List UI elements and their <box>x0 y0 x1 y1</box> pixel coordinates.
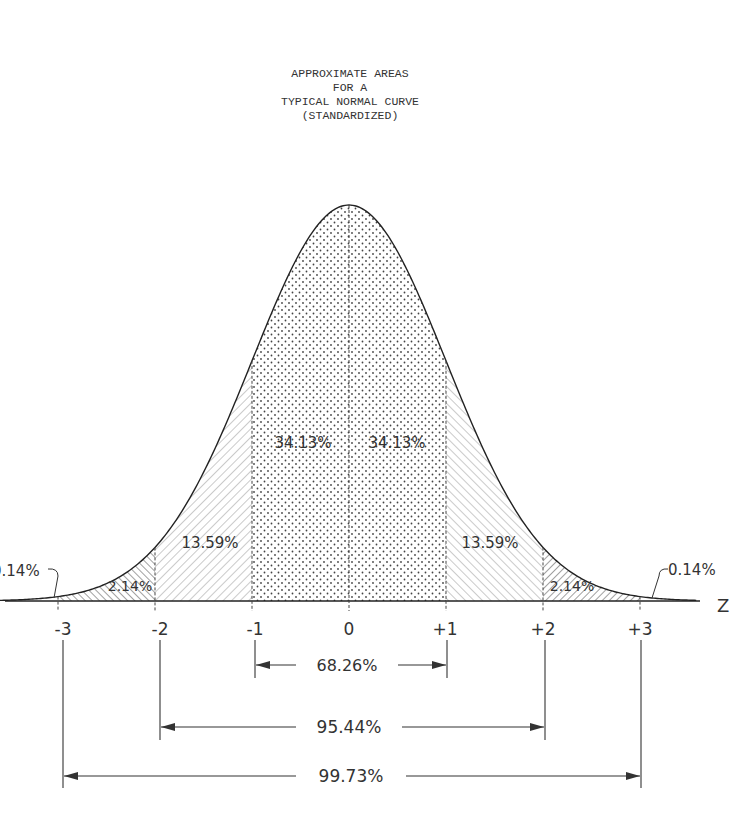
label-left-1-2: 13.59% <box>181 534 238 552</box>
tick-labels: -3 -2 -1 0 +1 +2 +3 <box>55 619 653 639</box>
right-tail-leader <box>652 569 668 598</box>
sigma-dividers <box>58 205 640 611</box>
left-tail-leader <box>48 569 58 598</box>
tick-label-minus-1: -1 <box>247 619 264 639</box>
z-axis-label: Z <box>717 595 729 616</box>
range-label-68: 68.26% <box>316 656 377 675</box>
normal-curve-diagram: 34.13% 34.13% 13.59% 13.59% 2.14% 2.14% … <box>0 0 755 839</box>
label-right-2-3: 2.14% <box>550 578 594 594</box>
label-right-tail: 0.14% <box>668 561 716 579</box>
tick-label-minus-2: -2 <box>152 619 169 639</box>
tick-label-0: 0 <box>344 619 355 639</box>
tick-label-plus-3: +3 <box>627 619 652 639</box>
label-right-0-1: 34.13% <box>368 434 425 452</box>
tick-label-plus-1: +1 <box>432 619 457 639</box>
label-right-1-2: 13.59% <box>461 534 518 552</box>
label-left-tail: 0.14% <box>0 562 40 580</box>
tick-label-minus-3: -3 <box>55 619 72 639</box>
range-label-99: 99.73% <box>319 766 384 786</box>
label-left-0-1: 34.13% <box>274 434 331 452</box>
tick-label-plus-2: +2 <box>530 619 555 639</box>
label-left-2-3: 2.14% <box>108 578 152 594</box>
range-label-95: 95.44% <box>317 717 382 737</box>
